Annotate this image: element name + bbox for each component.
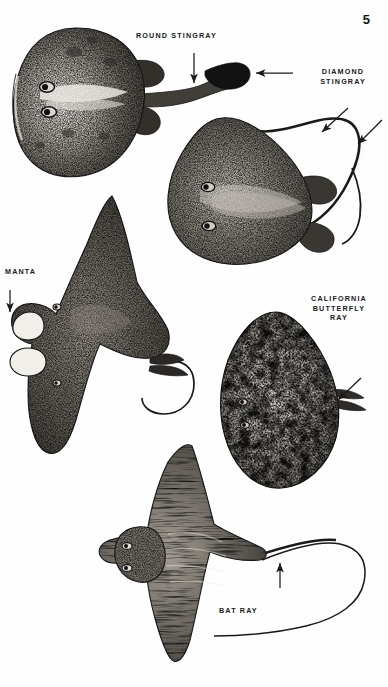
label-diamond-stingray: DIAMOND STINGRAY: [303, 67, 383, 86]
label-manta: MANTA: [5, 267, 36, 277]
label-california-butterfly-ray: CALIFORNIA BUTTERFLY RAY: [295, 294, 383, 323]
page-number: 5: [363, 12, 370, 27]
label-bat-ray: BAT RAY: [219, 606, 258, 616]
illustration-plate: [0, 0, 388, 687]
label-round-stingray: ROUND STINGRAY: [136, 31, 217, 41]
